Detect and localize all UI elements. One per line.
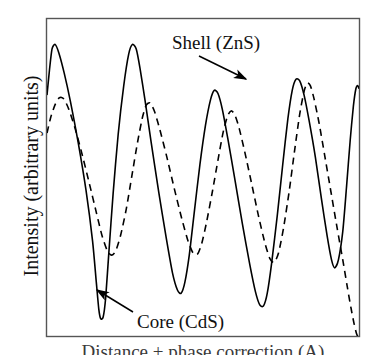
annotation-label-shell: Shell (ZnS)	[172, 32, 260, 54]
plot-frame	[47, 19, 360, 337]
plot-area: Shell (ZnS) Core (CdS)	[0, 0, 374, 355]
exafs-figure: Intensity (arbitrary units) Distance + p…	[0, 0, 374, 355]
annotation-label-core: Core (CdS)	[137, 311, 224, 333]
